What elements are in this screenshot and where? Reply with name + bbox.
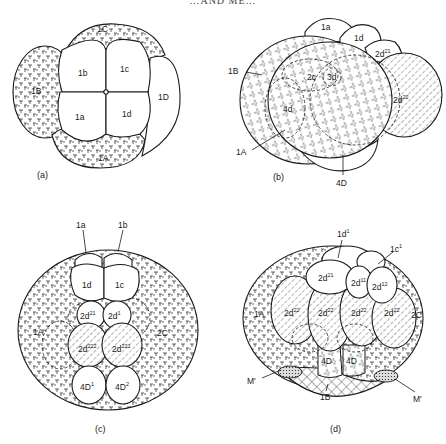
label-c-1b: 1b (118, 220, 128, 230)
label-d-M-right: M' (413, 394, 422, 404)
label-d-1d1: 1d1 (337, 228, 350, 239)
panel-c-label: (c) (95, 424, 106, 434)
panel-d: 1d1 1c1 2d21 2d11 2d12 2d22 2d22 2d22 2d… (243, 228, 423, 434)
label-d-1B: 1B (320, 392, 331, 402)
label-a-1a: 1a (75, 112, 85, 122)
label-b-3d: 3d (327, 72, 337, 82)
label-a-1A: 1A (98, 153, 109, 163)
label-d-M-left: M' (247, 376, 256, 386)
label-c-1c: 1c (115, 280, 125, 290)
label-a-1D: 1D (158, 92, 169, 102)
label-b-4d: 4d (283, 104, 293, 114)
label-b-1d: 1d (354, 33, 364, 43)
label-d-2C: 2C (411, 310, 422, 320)
embryo-figure: 1C 1B 1A 1D 1b 1c 1a 1d (a) 1a 1d 2d21 2… (0, 0, 446, 444)
panel-a-label: (a) (37, 170, 48, 180)
panel-d-label: (d) (330, 424, 341, 434)
label-a-1C: 1C (97, 24, 108, 34)
label-d-1A: 1A (254, 309, 265, 319)
label-a-1B: 1B (31, 86, 42, 96)
label-d-4D-2: 4D (346, 356, 357, 366)
pointer-c-1b (118, 230, 123, 252)
pointer-d-M-right (395, 379, 415, 392)
label-b-2c: 2c (307, 72, 317, 82)
label-d-1c1: 1c1 (390, 243, 402, 254)
label-b-4D: 4D (336, 178, 347, 188)
panel-b: 1a 1d 2d21 2d22 2c 3d 4d 1B 1A 4D (b) (228, 19, 442, 189)
label-a-1c: 1c (120, 64, 130, 74)
pointer-c-1a (83, 230, 86, 253)
label-b-1B: 1B (228, 66, 239, 76)
label-b-1a: 1a (321, 22, 331, 32)
label-d-4D-1: 4D (321, 356, 332, 366)
panel-b-label: (b) (273, 172, 284, 182)
panel-a: 1C 1B 1A 1D 1b 1c 1a 1d (a) (13, 24, 180, 180)
label-c-1a: 1a (76, 220, 86, 230)
label-a-1d: 1d (122, 109, 132, 119)
label-c-2C: 2C (157, 328, 168, 338)
label-b-1A: 1A (236, 147, 247, 157)
label-c-1d: 1d (82, 280, 92, 290)
panel-c: 1a 1b 1d 1c 2d21 2d1 2d222 2d221 4D1 4D2… (18, 220, 198, 434)
label-a-1b: 1b (78, 68, 88, 78)
label-c-1A: 1A (33, 327, 44, 337)
